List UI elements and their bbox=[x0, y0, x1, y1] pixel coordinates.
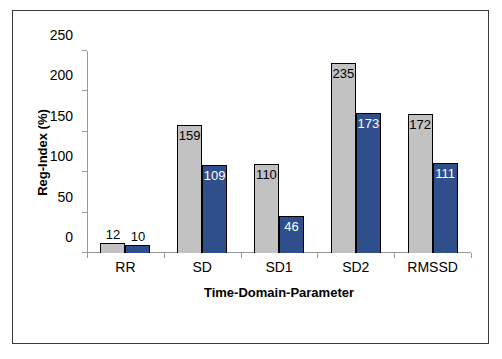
bar-blue: 10 bbox=[125, 245, 150, 253]
x-axis-tick bbox=[394, 253, 395, 258]
bar-blue: 46 bbox=[279, 216, 304, 253]
bar-value-label: 12 bbox=[106, 228, 120, 241]
y-axis-tick-label: 50 bbox=[57, 189, 73, 205]
x-axis-tick bbox=[87, 253, 88, 258]
bar-blue: 173 bbox=[356, 113, 381, 253]
x-axis-tick bbox=[317, 253, 318, 258]
y-axis-title-text: Reg-Index (%) bbox=[35, 109, 50, 196]
bar-group: 12 10 bbox=[87, 51, 164, 253]
x-category-label: RR bbox=[87, 259, 164, 281]
bar-blue: 111 bbox=[433, 163, 458, 253]
x-category-label: SD bbox=[164, 259, 241, 281]
bar-group: 110 46 bbox=[241, 51, 318, 253]
bar-value-label: 46 bbox=[284, 220, 298, 233]
bar-gray: 172 bbox=[408, 114, 433, 253]
bar-group: 172 111 bbox=[394, 51, 471, 253]
x-category-label: RMSSD bbox=[394, 259, 471, 281]
y-axis-tick-label: 100 bbox=[50, 148, 73, 164]
figure-frame: Reg-Index (%) 050100150200250 12 10 159 bbox=[12, 10, 489, 344]
x-axis-title: Time-Domain-Parameter bbox=[87, 285, 471, 300]
y-axis-tick-label: 200 bbox=[50, 67, 73, 83]
bar-value-label: 173 bbox=[357, 117, 379, 130]
y-axis-tick-label: 0 bbox=[65, 229, 73, 245]
x-axis-tick bbox=[241, 253, 242, 258]
bar-group: 159 109 bbox=[164, 51, 241, 253]
bar-groups: 12 10 159 109 110 46 bbox=[87, 51, 471, 253]
x-axis-tick bbox=[471, 253, 472, 258]
bar-gray: 12 bbox=[100, 243, 125, 253]
bar-group: 235 173 bbox=[317, 51, 394, 253]
bar-value-label: 110 bbox=[256, 168, 277, 181]
bar-value-label: 172 bbox=[409, 118, 431, 131]
x-category-label: SD1 bbox=[241, 259, 318, 281]
bar-value-label: 111 bbox=[435, 167, 455, 180]
x-axis-category-labels: RR SD SD1 SD2 RMSSD bbox=[87, 259, 471, 281]
y-axis-tick-label: 150 bbox=[50, 108, 73, 124]
plot-area: 050100150200250 12 10 159 109 bbox=[87, 51, 471, 253]
bar-blue: 109 bbox=[202, 165, 227, 253]
x-category-label: SD2 bbox=[317, 259, 394, 281]
bar-gray: 235 bbox=[331, 63, 356, 253]
bar-gray: 110 bbox=[254, 164, 279, 253]
bar-value-label: 109 bbox=[204, 169, 226, 182]
y-axis-tick-label: 250 bbox=[50, 27, 73, 43]
bar-value-label: 10 bbox=[131, 230, 145, 243]
bar-value-label: 235 bbox=[332, 67, 354, 80]
bar-value-label: 159 bbox=[179, 129, 201, 142]
bar-gray: 159 bbox=[177, 125, 202, 253]
x-axis-tick bbox=[164, 253, 165, 258]
